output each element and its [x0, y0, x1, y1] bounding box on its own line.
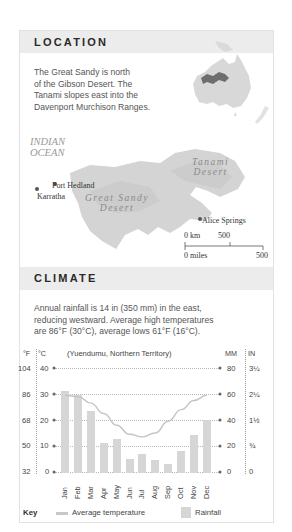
town-marker: [35, 187, 39, 191]
tanami-desert-label: Tanami Desert: [192, 157, 229, 177]
climate-chart-plot: [55, 368, 219, 473]
info-card: LOCATION The Great Sandy is north of the…: [19, 30, 274, 523]
month-label: Feb: [73, 486, 82, 499]
tick-f: 86: [22, 390, 30, 399]
tick-in: ¾: [249, 441, 255, 450]
tick-mm: 0: [227, 467, 231, 476]
description-line: reducing westward. Average high temperat…: [34, 315, 262, 327]
tick-f: 104: [18, 364, 31, 373]
month-label: Jun: [125, 487, 134, 499]
rainfall-legend-swatch: [181, 507, 191, 518]
key-label: Key: [23, 508, 37, 517]
temperature-legend-swatch: [56, 512, 68, 515]
ocean-label-line: INDIAN: [30, 136, 65, 147]
month-label: Sep: [163, 486, 172, 499]
ocean-label-line: OCEAN: [30, 147, 65, 158]
desert-label-line: Desert: [192, 167, 229, 177]
tick-f: 50: [22, 441, 30, 450]
month-label: May: [112, 485, 121, 499]
tick-mm: 80: [227, 364, 235, 373]
australia-locator-map: [185, 36, 280, 136]
scale-bar: [184, 242, 264, 250]
climate-description: Annual rainfall is 14 in (350 mm) in the…: [34, 303, 262, 338]
description-line: The Great Sandy is north: [34, 67, 184, 79]
axis-label-in: IN: [248, 349, 255, 358]
tick-mm: 60: [227, 390, 235, 399]
tick-f: 68: [22, 416, 30, 425]
month-label: Dec: [202, 486, 211, 499]
town-karratha: Karratha: [37, 192, 65, 201]
town-port-hedland: Port Hedland: [52, 181, 94, 190]
month-label: Jan: [60, 487, 69, 499]
tick-c: 20: [40, 416, 48, 425]
axis-label-celsius: °C: [38, 349, 46, 358]
chart-title: (Yuendumu, Northern Territory): [67, 349, 172, 358]
climate-header-band: CLIMATE: [20, 267, 273, 290]
location-header: LOCATION: [34, 36, 108, 48]
ocean-label: INDIAN OCEAN: [30, 136, 65, 158]
legend-rainfall: Rainfall: [195, 508, 221, 517]
tick-in: 0: [249, 467, 253, 476]
desert-label-line: Great Sandy: [85, 193, 149, 203]
scale-miles-value: 500: [256, 251, 268, 260]
month-label: Apr: [99, 487, 108, 499]
desert-label-line: Tanami: [192, 157, 229, 167]
legend-temperature: Average temperature: [72, 508, 145, 517]
scale-km-label: 0 km: [184, 231, 200, 240]
tick-mm: 20: [227, 441, 235, 450]
climate-header: CLIMATE: [34, 272, 97, 284]
scale-miles-label: 0 miles: [184, 251, 207, 260]
tick-mm: 40: [227, 416, 235, 425]
tick-c: 10: [40, 441, 48, 450]
month-label: Jul: [137, 490, 146, 499]
description-line: Tanami slopes east into the: [34, 90, 184, 102]
desert-map: INDIAN OCEAN Tanami Desert Great Sandy D…: [20, 131, 275, 266]
tick-c: 30: [40, 390, 48, 399]
description-line: Annual rainfall is 14 in (350 mm) in the…: [34, 303, 262, 315]
axis-dots: [55, 368, 219, 473]
town-alice-springs: Alice Springs: [202, 216, 246, 225]
desert-label-line: Desert: [85, 203, 149, 213]
tick-f: 32: [22, 467, 30, 476]
month-label: Nov: [189, 486, 198, 499]
great-sandy-desert-label: Great Sandy Desert: [85, 193, 149, 213]
axis-label-mm: MM: [225, 349, 237, 358]
location-description: The Great Sandy is north of the Gibson D…: [34, 67, 184, 113]
tick-c: 40: [40, 364, 48, 373]
scale-km-value: 500: [218, 231, 230, 240]
description-line: are 86°F (30°C), average lows 61°F (16°C…: [34, 326, 262, 338]
month-label: Mar: [86, 486, 95, 499]
description-line: Davenport Murchison Ranges.: [34, 102, 184, 114]
month-label: Oct: [176, 488, 185, 500]
axis-divider-left: [36, 349, 37, 474]
tick-in: 1½: [249, 416, 260, 425]
tick-in: 2¼: [249, 390, 260, 399]
tick-c: 0: [45, 467, 49, 476]
axis-label-fahrenheit: °F: [23, 349, 30, 358]
description-line: of the Gibson Desert. The: [34, 79, 184, 91]
tick-in: 3¼: [249, 364, 260, 373]
axis-divider-right: [245, 349, 246, 474]
month-label: Aug: [150, 486, 159, 499]
